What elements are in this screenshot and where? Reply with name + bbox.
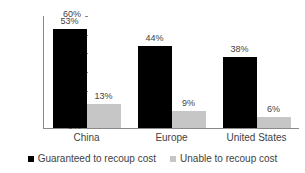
bar: [87, 104, 121, 128]
bar: [223, 57, 257, 128]
bar-pair: 38%6%: [214, 16, 299, 128]
bar-value-label: 44%: [145, 34, 163, 43]
bar-value-label: 6%: [267, 105, 280, 114]
bar: [257, 117, 291, 128]
bar-column: 6%: [257, 16, 291, 128]
bar-value-label: 13%: [94, 92, 112, 101]
bar-column: 38%: [223, 16, 257, 128]
legend-item[interactable]: Guaranteed to recoup cost: [28, 153, 156, 164]
bar-pair: 53%13%: [44, 16, 129, 128]
bar-column: 9%: [172, 16, 206, 128]
x-axis-line: [43, 128, 299, 129]
gray-square-marker: [170, 156, 176, 162]
x-axis-category-label: Europe: [129, 132, 214, 143]
y-axis-tick-mark: [85, 128, 88, 129]
bar-value-label: 53%: [60, 17, 78, 26]
bar-group: 44%9%: [129, 16, 214, 128]
legend-item[interactable]: Unable to recoup cost: [170, 153, 277, 164]
plot-area: 0%10%20%30%40%50%60% 53%13%44%9%38%6%: [44, 16, 299, 128]
chart-legend: Guaranteed to recoup costUnable to recou…: [0, 153, 305, 164]
black-square-marker: [28, 156, 34, 162]
bar-chart: 0%10%20%30%40%50%60% 53%13%44%9%38%6% Ch…: [0, 0, 305, 173]
bar-pair: 44%9%: [129, 16, 214, 128]
bar-column: 53%: [53, 16, 87, 128]
legend-item-label: Unable to recoup cost: [180, 153, 277, 164]
bar-value-label: 38%: [230, 45, 248, 54]
x-axis-category-label: United States: [214, 132, 299, 143]
bar: [53, 29, 87, 128]
bar-group: 53%13%: [44, 16, 129, 128]
bar-column: 44%: [138, 16, 172, 128]
x-axis-category-label: China: [44, 132, 129, 143]
legend-item-label: Guaranteed to recoup cost: [38, 153, 156, 164]
bar-group: 38%6%: [214, 16, 299, 128]
bar-value-label: 9%: [182, 99, 195, 108]
bar: [172, 111, 206, 128]
bar-column: 13%: [87, 16, 121, 128]
bar: [138, 46, 172, 128]
